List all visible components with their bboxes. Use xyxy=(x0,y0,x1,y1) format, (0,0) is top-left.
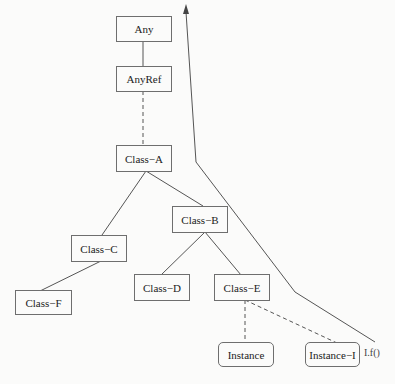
edge-class-b-class-d xyxy=(161,232,205,275)
node-instance: Instance xyxy=(218,342,274,367)
node-instance-i: Instance−I xyxy=(305,342,360,367)
edge-class-c-class-f xyxy=(40,261,101,291)
class-hierarchy-diagram: Any AnyRef Class−A Class−B Class−C Class… xyxy=(0,0,395,384)
arrowhead-icon xyxy=(183,4,189,14)
edge-class-a-class-c xyxy=(102,171,146,235)
edge-class-a-class-b xyxy=(146,171,203,206)
node-class-a: Class−A xyxy=(116,145,172,172)
node-any: Any xyxy=(116,16,172,42)
node-class-e: Class−E xyxy=(214,274,270,301)
node-class-d: Class−D xyxy=(134,274,190,301)
node-anyref: AnyRef xyxy=(116,66,172,92)
edge-class-b-class-e xyxy=(205,232,241,275)
node-class-b: Class−B xyxy=(172,206,228,233)
diagram-edges xyxy=(0,0,395,384)
lookup-path-label: I.f() xyxy=(364,347,380,358)
edge-class-e-instance-i xyxy=(245,300,337,343)
node-class-c: Class−C xyxy=(71,235,127,262)
node-class-f: Class−F xyxy=(15,290,72,315)
